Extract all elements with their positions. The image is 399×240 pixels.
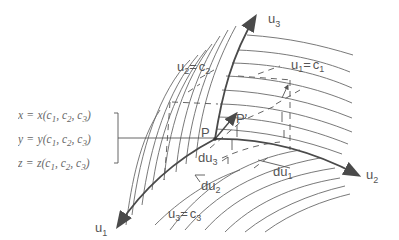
- curvilinear-coordinates-diagram: u3 u2 u1 u1=c1 u2=c2 u3=c3 P P' du3 du2 …: [0, 0, 399, 240]
- svg-text:u2=c2: u2=c2: [177, 59, 210, 76]
- svg-text:u1: u1: [95, 220, 107, 238]
- svg-text:u1=c1: u1=c1: [291, 57, 324, 74]
- svg-text:x=x(c1, c2, c3): x=x(c1, c2, c3): [18, 109, 91, 124]
- svg-text:P: P: [201, 125, 210, 140]
- svg-text:P': P': [236, 111, 247, 126]
- svg-text:u2: u2: [366, 167, 378, 185]
- svg-text:du2: du2: [201, 178, 220, 195]
- svg-text:u3=c3: u3=c3: [168, 206, 201, 223]
- svg-text:u3: u3: [268, 11, 280, 29]
- svg-text:du3: du3: [198, 150, 217, 167]
- svg-text:z=z(c1, c2, c3): z=z(c1, c2, c3): [18, 157, 90, 172]
- svg-text:y=y(c1, c2, c3): y=y(c1, c2, c3): [18, 133, 91, 148]
- svg-text:du1: du1: [273, 164, 292, 181]
